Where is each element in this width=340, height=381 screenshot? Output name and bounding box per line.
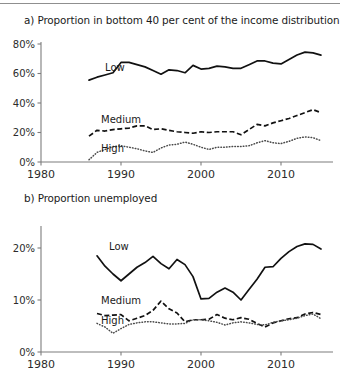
y-tick-label: 20% <box>13 127 35 138</box>
x-tick-label: 2010 <box>267 358 295 371</box>
x-tick-label: 2010 <box>267 168 295 181</box>
y-tick-label: 60% <box>13 68 35 79</box>
y-tick-label: 10% <box>13 295 35 306</box>
x-tick-label: 1980 <box>27 168 55 181</box>
series-label-medium: Medium <box>101 114 141 125</box>
series-label-high: High <box>101 143 124 154</box>
series-line-low <box>97 244 321 300</box>
y-tick-label: 0% <box>19 157 35 168</box>
series-label-low: Low <box>105 62 125 73</box>
top-divider-rule <box>0 3 340 4</box>
y-tick-label: 20% <box>13 243 35 254</box>
y-tick-label: 0% <box>19 347 35 358</box>
panel-a-plot: 0%20%40%60%80%1980199020002010LowMediumH… <box>0 14 340 190</box>
series-label-low: Low <box>109 241 129 252</box>
series-label-medium: Medium <box>101 295 141 306</box>
x-tick-label: 1990 <box>107 358 135 371</box>
y-tick-label: 40% <box>13 98 35 109</box>
series-line-high <box>97 314 321 333</box>
panel-b-plot: 0%10%20%1980199020002010LowMediumHigh <box>0 192 340 381</box>
series-label-high: High <box>101 315 124 326</box>
x-tick-label: 2000 <box>187 168 215 181</box>
figure-root: a) Proportion in bottom 40 per cent of t… <box>0 0 340 381</box>
chart-panel-b: b) Proportion unemployed 0%10%20%1980199… <box>0 192 340 381</box>
x-tick-label: 1980 <box>27 358 55 371</box>
chart-panel-a: a) Proportion in bottom 40 per cent of t… <box>0 14 340 190</box>
y-tick-label: 80% <box>13 39 35 50</box>
x-tick-label: 2000 <box>187 358 215 371</box>
x-tick-label: 1990 <box>107 168 135 181</box>
